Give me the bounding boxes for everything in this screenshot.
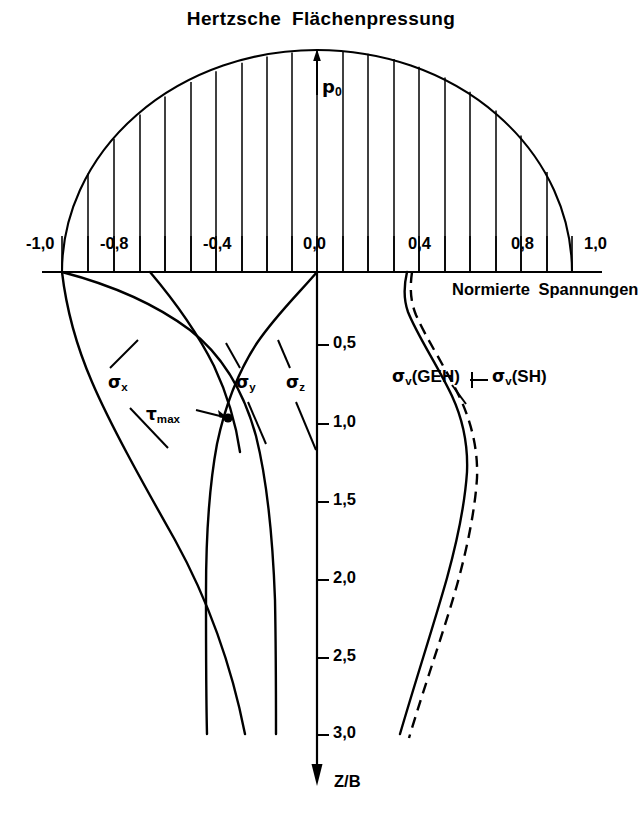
- x-tick-label-0-8: 0,8: [511, 234, 534, 253]
- p0-label-sub: 0: [335, 85, 342, 99]
- sigma-v-geh-label: σv(GEH): [392, 366, 460, 387]
- sigma-z-label: σz: [286, 372, 305, 393]
- y-tick-label-2-5: 2,5: [333, 646, 356, 665]
- y-tick-label-3-0: 3,0: [333, 723, 356, 742]
- leader-sigma-y-upper: [226, 343, 240, 368]
- sigma-v-sh-label-rest: (SH): [512, 367, 547, 386]
- tau-max-label-main: τ: [146, 404, 157, 424]
- sigma-y-label-main: σ: [236, 372, 249, 392]
- tau-max-label-sub: max: [157, 413, 180, 425]
- y-axis-group: [312, 272, 330, 786]
- y-tick-label-0-5: 0,5: [333, 333, 356, 352]
- sigma-z-label-main: σ: [286, 372, 299, 392]
- x-tick-label-neg-0-4: -0,4: [203, 234, 231, 253]
- curve-shear-branch: [150, 272, 240, 452]
- curve-sigma-x: [62, 272, 245, 734]
- hertzian-contact-stress-figure: Hertzsche Flächenpressung: [0, 0, 642, 826]
- sigma-x-label-sub: x: [121, 381, 127, 393]
- y-axis-arrowhead: [312, 764, 323, 786]
- sigma-y-label-sub: y: [249, 381, 255, 393]
- sigma-v-geh-label-main: σ: [392, 366, 405, 386]
- sigma-y-label: σy: [236, 372, 256, 393]
- curve-sigma-z: [206, 272, 317, 734]
- sigma-v-sh-label-main: σ: [492, 366, 505, 386]
- tau-max-label: τmax: [146, 404, 180, 425]
- x-tick-label-neg-1-0: -1,0: [26, 234, 54, 253]
- y-tick-label-2-0: 2,0: [333, 568, 356, 587]
- stress-curves-group: [62, 272, 467, 734]
- sigma-z-label-sub: z: [299, 381, 305, 393]
- sigma-x-label: σx: [108, 372, 128, 393]
- y-axis-label: Z/B: [334, 772, 361, 791]
- plot-canvas: [0, 0, 642, 826]
- curve-sigma-v-geh: [400, 272, 467, 734]
- tau-max-marker-group: [196, 410, 233, 423]
- x-tick-label-0-4: 0,4: [408, 234, 431, 253]
- leader-sigma-x-upper: [110, 340, 138, 368]
- sigma-x-label-main: σ: [108, 372, 121, 392]
- leader-sigma-z-upper: [278, 340, 290, 368]
- y-tick-label-1-0: 1,0: [333, 412, 356, 431]
- leader-sigma-z-lower: [296, 402, 316, 450]
- x-tick-label-1-0: 1,0: [584, 234, 607, 253]
- p0-label: p0: [322, 76, 342, 99]
- y-tick-label-1-5: 1,5: [333, 490, 356, 509]
- x-axis-label: Normierte Spannungen: [452, 280, 638, 299]
- p0-label-main: p: [322, 76, 335, 97]
- sigma-v-sh-label: σv(SH): [492, 366, 547, 387]
- curve-sigma-y: [62, 272, 276, 734]
- x-tick-label-0-0: 0,0: [303, 234, 326, 253]
- x-tick-label-neg-0-8: -0,8: [100, 234, 128, 253]
- sigma-v-geh-label-rest: (GEH): [412, 367, 460, 386]
- y-axis-ticks: [317, 345, 329, 735]
- p0-arrow: [313, 49, 321, 95]
